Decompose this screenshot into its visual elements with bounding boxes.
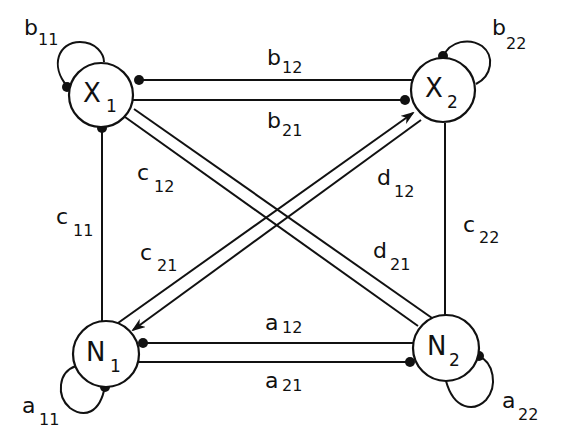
edge-c12 — [125, 117, 418, 326]
node-x1-sub: 1 — [106, 96, 117, 116]
label-c22: c 22 — [463, 212, 499, 247]
node-x2-sub: 2 — [447, 92, 458, 112]
svg-text:12: 12 — [282, 318, 302, 337]
label-c12: c 12 — [137, 160, 174, 196]
label-d21: d 21 — [373, 238, 410, 274]
label-a11: a 11 — [22, 393, 59, 429]
svg-text:11: 11 — [38, 30, 58, 49]
svg-text:21: 21 — [282, 376, 302, 395]
svg-text:b: b — [267, 108, 281, 133]
svg-text:a: a — [502, 388, 515, 413]
edge-d21 — [134, 109, 432, 318]
edge-a12 — [138, 338, 414, 348]
svg-text:11: 11 — [73, 221, 93, 240]
node-x2-letter: X — [425, 73, 443, 103]
svg-text:22: 22 — [518, 405, 538, 424]
label-c11: c 11 — [56, 204, 93, 240]
edge-b12 — [134, 75, 412, 85]
label-b12: b 12 — [267, 45, 302, 77]
node-n2: N 2 — [413, 315, 479, 381]
node-n1-sub: 1 — [110, 356, 121, 376]
label-b21: b 21 — [267, 108, 302, 140]
edge-a21 — [138, 357, 415, 367]
svg-text:c: c — [137, 160, 149, 185]
svg-text:c: c — [463, 212, 475, 237]
node-x1-letter: X — [83, 78, 101, 108]
svg-text:b: b — [492, 15, 506, 40]
node-n1-letter: N — [86, 337, 105, 367]
label-b11: b 11 — [24, 15, 58, 49]
dot-end-icon — [134, 75, 144, 85]
svg-text:d: d — [377, 165, 391, 190]
interaction-diagram: X 1 X 2 N 1 N 2 b 11 b 22 b 12 b 21 c 12… — [0, 0, 564, 443]
svg-text:21: 21 — [390, 255, 410, 274]
svg-text:21: 21 — [282, 121, 302, 140]
svg-text:b: b — [267, 45, 281, 70]
label-a22: a 22 — [502, 388, 538, 424]
node-x2: X 2 — [411, 58, 475, 122]
svg-text:22: 22 — [506, 34, 526, 53]
node-x1: X 1 — [69, 63, 133, 127]
node-n2-letter: N — [427, 331, 446, 361]
dot-end-icon — [400, 95, 410, 105]
svg-text:12: 12 — [282, 58, 302, 77]
svg-text:a: a — [265, 368, 278, 393]
label-b22: b 22 — [492, 15, 526, 53]
svg-text:c: c — [56, 204, 68, 229]
svg-text:22: 22 — [479, 228, 499, 247]
node-n1: N 1 — [73, 321, 139, 387]
label-d12: d 12 — [377, 165, 414, 201]
svg-text:a: a — [22, 393, 35, 418]
edge-c11 — [97, 123, 107, 321]
label-a21: a 21 — [265, 368, 302, 395]
dot-end-icon — [405, 357, 415, 367]
svg-text:d: d — [373, 238, 387, 263]
label-c21: c 21 — [140, 240, 177, 275]
svg-text:a: a — [265, 310, 278, 335]
svg-text:c: c — [140, 240, 152, 265]
svg-text:11: 11 — [39, 410, 59, 429]
label-a12: a 12 — [265, 310, 302, 337]
svg-text:b: b — [24, 15, 38, 40]
svg-text:12: 12 — [394, 182, 414, 201]
dot-end-icon — [138, 338, 148, 348]
svg-text:21: 21 — [157, 256, 177, 275]
svg-text:12: 12 — [154, 177, 174, 196]
edge-b21 — [133, 95, 410, 105]
node-n2-sub: 2 — [449, 350, 460, 370]
